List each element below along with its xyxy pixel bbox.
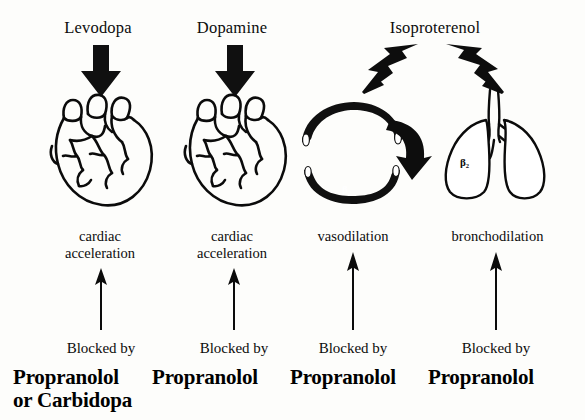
- blocked-by-label-4: Blocked by: [436, 340, 556, 357]
- effect-line-1: cardiac: [172, 228, 292, 245]
- blocker-line-1: Propranolol: [290, 366, 396, 389]
- thick-down-arrow-icon-levodopa: [80, 45, 122, 98]
- blocker-drug-levodopa: Propranolol or Carbidopa: [13, 366, 132, 412]
- effect-line-1: vasodilation: [288, 228, 418, 245]
- effect-line-2: acceleration: [40, 245, 160, 262]
- pharmacology-diagram: Levodopa Dopamine Isoproterenol: [0, 0, 585, 420]
- effect-line-1: cardiac: [40, 228, 160, 245]
- thin-up-arrow-icon-vasodilation: [345, 252, 361, 330]
- blocked-by-label-3: Blocked by: [293, 340, 413, 357]
- blocked-by-label-1: Blocked by: [41, 340, 161, 357]
- receptor-label-vessel: β₂: [342, 183, 352, 195]
- drug-label-levodopa: Levodopa: [38, 18, 158, 38]
- thin-up-arrow-icon-levodopa: [93, 268, 109, 330]
- drug-label-dopamine: Dopamine: [172, 18, 292, 38]
- blocker-drug-bronchodilation: Propranolol: [428, 366, 534, 389]
- thin-up-arrow-icon-bronchodilation: [488, 252, 504, 330]
- blocker-line-1: Propranolol: [428, 366, 534, 389]
- effect-line-1: bronchodilation: [420, 228, 575, 245]
- heart-icon-dopamine: [180, 92, 300, 210]
- effect-label-vasodilation: vasodilation: [288, 228, 418, 245]
- blocker-drug-vasodilation: Propranolol: [290, 366, 396, 389]
- effect-label-bronchodilation: bronchodilation: [420, 228, 575, 245]
- effect-label-cardiac-acceleration-2: cardiac acceleration: [172, 228, 292, 262]
- blocker-line-1: Propranolol: [152, 366, 258, 389]
- thin-up-arrow-icon-dopamine: [226, 268, 242, 330]
- blocked-by-label-2: Blocked by: [174, 340, 294, 357]
- thick-down-arrow-icon-dopamine: [214, 45, 256, 98]
- effect-line-2: acceleration: [172, 245, 292, 262]
- lungs-icon: β₂: [432, 88, 564, 212]
- effect-label-cardiac-acceleration-1: cardiac acceleration: [40, 228, 160, 262]
- receptor-label-lung: β₂: [460, 156, 470, 168]
- curved-dilation-arrow-icon: [382, 116, 434, 184]
- blocker-drug-dopamine: Propranolol: [152, 366, 258, 389]
- thick-diagonal-arrow-left-icon: [358, 42, 420, 98]
- heart-icon-levodopa: [46, 92, 166, 210]
- drug-label-isoproterenol: Isoproterenol: [355, 18, 515, 38]
- blocker-line-1: Propranolol: [13, 366, 132, 389]
- blocker-line-2: or Carbidopa: [13, 389, 132, 412]
